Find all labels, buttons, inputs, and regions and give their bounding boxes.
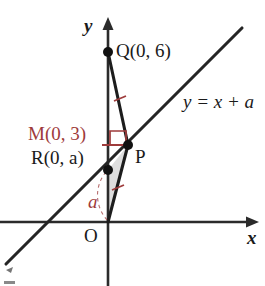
point-p-label: P: [135, 147, 146, 166]
tick-mark-qp: [114, 96, 126, 101]
point-r-label: R(0, a): [31, 148, 84, 167]
point-p-dot: [123, 140, 133, 150]
dashed-arc-a: [98, 172, 108, 220]
y-axis-label: y: [84, 16, 92, 35]
x-axis-arrowhead: [246, 217, 259, 228]
x-axis-label: x: [247, 228, 257, 247]
geometry-figure: y x Q(0, 6) M(0, 3) R(0, a) P O y = x + …: [0, 0, 265, 286]
point-m-label: M(0, 3): [28, 124, 86, 143]
scan-artifact-bar: [4, 281, 15, 284]
line-equation-label: y = x + a: [183, 92, 254, 111]
point-r-dot: [103, 165, 113, 175]
segment-a-label: a: [88, 192, 98, 211]
point-q-dot: [103, 47, 113, 57]
origin-label: O: [84, 226, 98, 245]
point-q-label: Q(0, 6): [116, 41, 171, 60]
scan-artifact: [6, 267, 13, 273]
y-axis-arrowhead: [103, 17, 114, 30]
